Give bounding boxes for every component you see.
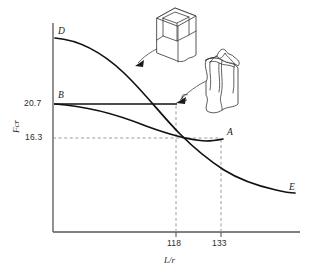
curve-label-D: D xyxy=(58,27,65,37)
x-tick-label-118: 118 xyxy=(167,239,181,248)
y-tick-label-16-3: 16.3 xyxy=(25,133,42,142)
curve-label-C: C xyxy=(181,94,187,104)
y-tick-label-20-7: 20.7 xyxy=(24,99,41,108)
y-axis-title: Fcr xyxy=(12,120,21,133)
x-tick-marks xyxy=(176,232,221,237)
curve-B-A xyxy=(55,104,223,141)
curve-D-A-E xyxy=(55,38,295,193)
column-buckling-figure: D B C A E 20.7 16.3 118 133 Fcr L/r xyxy=(0,0,311,270)
plot-canvas xyxy=(0,0,311,270)
x-axis-title: L/r xyxy=(164,256,175,265)
curve-label-B: B xyxy=(58,91,64,101)
curve-label-E: E xyxy=(289,183,295,193)
buckled-box-column-icon xyxy=(205,49,239,113)
square-box-column-icon xyxy=(157,8,196,62)
curve-label-A: A xyxy=(227,128,233,138)
x-tick-label-133: 133 xyxy=(212,239,227,248)
